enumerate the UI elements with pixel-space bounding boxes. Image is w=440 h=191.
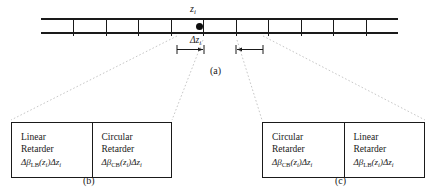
retarder-box-c: Circular Retarder ΔβCB(zi)Δzi Linear Ret… <box>262 122 425 178</box>
panel-a-caption: (a) <box>210 66 221 76</box>
retarder-b-2-formula-arg-close: )Δz <box>128 157 140 167</box>
slab-divider <box>333 20 334 36</box>
retarder-b-1-formula-arg-close: )Δz <box>47 157 59 167</box>
thickness-label-symbol: Δz <box>190 35 199 45</box>
slab-divider <box>106 20 107 36</box>
retarder-b-2-formula: ΔβCB(zi)Δzi <box>102 156 172 169</box>
retarder-b-1-formula-sub: LB <box>31 161 39 168</box>
panel-b-caption-text: (b) <box>83 175 95 186</box>
retarder-c-1-formula: ΔβCB(zi)Δzi <box>272 156 344 169</box>
thickness-dimension-indicator <box>175 45 265 54</box>
retarder-b-2-line2: Retarder <box>102 143 172 155</box>
retarder-cell-c-1: Circular Retarder ΔβCB(zi)Δzi <box>263 123 344 177</box>
retarder-c-2-formula: ΔβLB(zi)Δzi <box>354 156 425 169</box>
retarder-c-2-line2: Retarder <box>354 143 425 155</box>
retarder-c-1-formula-arg-close: )Δz <box>299 157 311 167</box>
slab-divider <box>236 20 237 36</box>
retarder-c-1-formula-prefix: Δβ <box>272 157 282 167</box>
figure-root: zi Δzi (a) Linear Retarder <box>0 0 440 191</box>
retarder-cell-b-1: Linear Retarder ΔβLB(zi)Δzi <box>12 123 92 177</box>
retarder-c-2-formula-prefix: Δβ <box>354 157 364 167</box>
panel-c-caption-text: (c) <box>335 175 346 186</box>
slab-divider <box>203 20 204 36</box>
slab-divider <box>301 20 302 36</box>
position-label-zi: zi <box>190 4 196 16</box>
retarder-b-2-formula-tail-sub: i <box>140 161 142 168</box>
slab-divider <box>268 20 269 36</box>
segmented-slab <box>41 18 398 34</box>
retarder-c-1-line1: Circular <box>272 131 344 143</box>
retarder-box-b: Linear Retarder ΔβLB(zi)Δzi Circular Ret… <box>11 122 172 178</box>
retarder-c-2-formula-tail-sub: i <box>392 161 394 168</box>
retarder-cell-b-2: Circular Retarder ΔβCB(zi)Δzi <box>92 123 172 177</box>
retarder-c-1-formula-tail-sub: i <box>311 161 313 168</box>
slab-divider <box>138 20 139 36</box>
slab-divider <box>366 20 367 36</box>
retarder-b-1-line2: Retarder <box>21 143 92 155</box>
retarder-b-2-formula-sub: CB <box>111 161 120 168</box>
retarder-b-1-formula-tail-sub: i <box>59 161 61 168</box>
guide-line-c-right <box>263 36 425 120</box>
retarder-c-2-formula-arg-close: )Δz <box>380 157 392 167</box>
center-segment-dot <box>196 23 203 30</box>
retarder-c-1-line2: Retarder <box>272 143 344 155</box>
retarder-c-2-formula-sub: LB <box>363 161 371 168</box>
retarder-cell-c-2: Linear Retarder ΔβLB(zi)Δzi <box>344 123 425 177</box>
retarder-b-2-line1: Circular <box>102 131 172 143</box>
retarder-b-1-line1: Linear <box>21 131 92 143</box>
panel-b-caption: (b) <box>83 176 95 186</box>
retarder-c-2-line1: Linear <box>354 131 425 143</box>
panel-c-caption: (c) <box>335 176 346 186</box>
guide-line-b-left <box>11 36 177 120</box>
panel-a-caption-text: (a) <box>210 65 221 76</box>
slab-divider <box>73 20 74 36</box>
position-label-subscript: i <box>194 8 196 16</box>
retarder-b-1-formula-prefix: Δβ <box>21 157 31 167</box>
retarder-b-2-formula-prefix: Δβ <box>102 157 112 167</box>
retarder-b-1-formula: ΔβLB(zi)Δzi <box>21 156 92 169</box>
slab-divider <box>171 20 172 36</box>
